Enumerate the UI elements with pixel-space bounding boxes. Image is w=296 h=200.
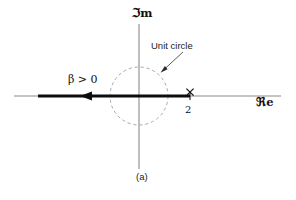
figure-canvas	[0, 0, 296, 200]
complex-plane-figure: ℑm ℜe Unit circle β > 0 2 (a)	[0, 0, 296, 200]
branch-cut-arrowhead-icon	[80, 91, 92, 100]
imaginary-axis-label: ℑm	[132, 8, 153, 20]
beta-condition-label: β > 0	[68, 74, 98, 85]
figure-caption: (a)	[136, 172, 148, 182]
real-axis-label: ℜe	[256, 97, 274, 109]
unit-circle-leader-line	[164, 52, 184, 70]
pole-value-label: 2	[185, 105, 191, 115]
unit-circle-annotation-label: Unit circle	[151, 41, 193, 51]
